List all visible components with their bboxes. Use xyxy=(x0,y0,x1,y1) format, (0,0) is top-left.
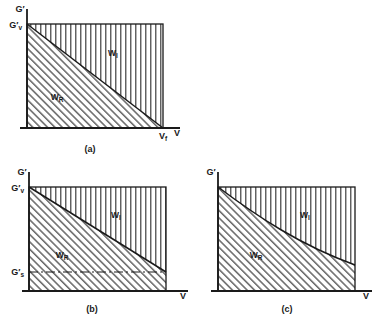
panel-b-y-tick-gv: G′v xyxy=(11,183,24,194)
panel-a-caption: (a) xyxy=(85,144,96,154)
panel-c-x-axis-label: V xyxy=(363,291,369,301)
figure-svg: G′ G′v Vf V WI WR (a) G′ G′v G′s V WI WR… xyxy=(0,0,375,318)
panel-a-x-tick-vf: Vf xyxy=(159,131,168,142)
panel-c-caption: (c) xyxy=(282,304,293,314)
panel-b-y-axis-label: G′ xyxy=(17,167,26,177)
figure-container: G′ G′v Vf V WI WR (a) G′ G′v G′s V WI WR… xyxy=(0,0,375,318)
panel-a: G′ G′v Vf V WI WR (a) xyxy=(9,4,180,154)
panel-a-y-axis-label: G′ xyxy=(15,4,24,14)
panel-c: G′ V WI WR (c) xyxy=(206,167,372,314)
panel-b-caption: (b) xyxy=(86,304,98,314)
panel-a-y-tick-gv: G′v xyxy=(9,20,22,31)
panel-b-x-axis-label: V xyxy=(180,291,186,301)
panel-b: G′ G′v G′s V WI WR (b) xyxy=(11,167,188,314)
panel-a-x-axis-label: V xyxy=(174,128,180,138)
panel-b-y-tick-gs: G′s xyxy=(11,267,24,278)
panel-c-y-axis-label: G′ xyxy=(206,167,215,177)
